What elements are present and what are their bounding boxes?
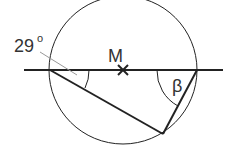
circle bbox=[49, 0, 197, 144]
chord-left bbox=[50, 70, 163, 134]
given-angle-label: 29 bbox=[14, 36, 34, 56]
degree-symbol: o bbox=[37, 32, 43, 44]
center-label: M bbox=[108, 46, 123, 66]
angle-leader-line bbox=[40, 52, 77, 75]
angle-arc-29 bbox=[85, 70, 89, 88]
unknown-angle-label: β bbox=[172, 76, 182, 96]
geometry-diagram: M 29 o β bbox=[0, 0, 236, 167]
